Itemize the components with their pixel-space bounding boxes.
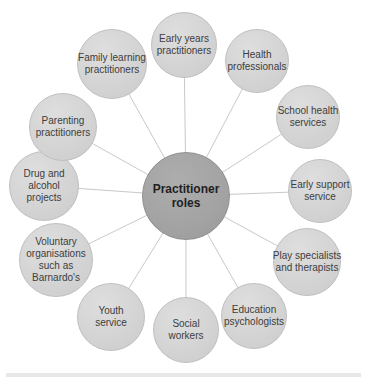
node-school-health-services: School health services bbox=[276, 85, 340, 149]
node-youth-service: Youth service bbox=[77, 283, 145, 351]
node-parenting-practitioners: Parenting practitioners bbox=[29, 93, 97, 161]
node-social-workers: Social workers bbox=[153, 297, 219, 363]
node-drug-and-alcohol-projects: Drug and alcohol projects bbox=[9, 151, 79, 221]
bottom-rule bbox=[6, 373, 361, 377]
node-family-learning-practitioners: Family learning practitioners bbox=[77, 29, 147, 99]
node-label: Family learning practitioners bbox=[70, 52, 154, 76]
node-label: Parenting practitioners bbox=[21, 115, 105, 139]
hub-practitioner-roles: Practitioner roles bbox=[142, 152, 230, 240]
practitioner-roles-diagram: Early years practitioners Health profess… bbox=[0, 0, 365, 381]
node-label: Play specialists and therapists bbox=[265, 250, 349, 274]
node-early-support-service: Early support service bbox=[288, 159, 352, 223]
node-voluntary-organisations: Voluntary organisations such as Barnardo… bbox=[19, 223, 93, 297]
node-label: Voluntary organisations such as Barnardo… bbox=[14, 236, 98, 284]
node-label: Health professionals bbox=[215, 49, 299, 73]
node-label: Early years practitioners bbox=[142, 33, 226, 57]
node-health-professionals: Health professionals bbox=[225, 29, 289, 93]
node-education-psychologists: Education psychologists bbox=[221, 283, 287, 349]
node-early-years-practitioners: Early years practitioners bbox=[151, 12, 217, 78]
node-play-specialists-and-therapists: Play specialists and therapists bbox=[273, 228, 341, 296]
node-label: Social workers bbox=[144, 318, 228, 342]
hub-label: Practitioner roles bbox=[136, 182, 236, 210]
node-label: Youth service bbox=[69, 305, 153, 329]
node-label: Drug and alcohol projects bbox=[2, 168, 86, 204]
node-label: School health services bbox=[266, 105, 350, 129]
node-label: Early support service bbox=[278, 179, 362, 203]
